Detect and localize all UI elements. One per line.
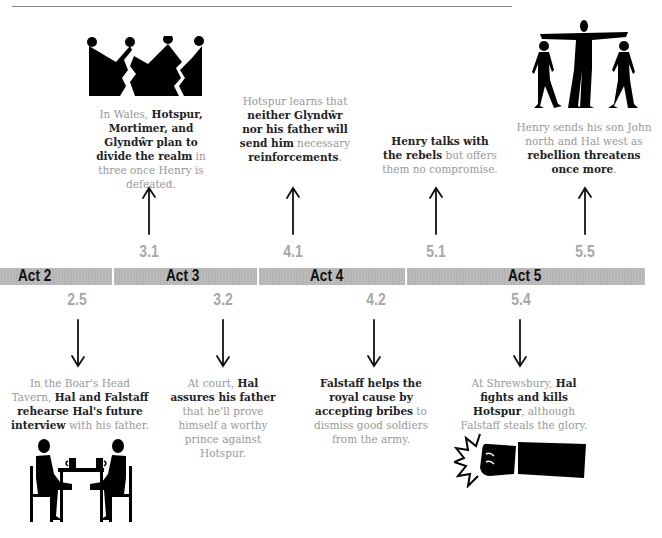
scene-number-5-5: 5.5 xyxy=(569,242,602,262)
arrow-down-icon xyxy=(512,318,528,368)
punching-fist-icon xyxy=(454,432,590,488)
caption-4-1: Hotspur learns that neither Glyndŵr nor … xyxy=(236,94,354,164)
tavern-table-icon xyxy=(16,438,144,524)
act-label-4: Act 4 xyxy=(310,266,343,286)
arrow-up-icon xyxy=(428,186,444,236)
act-bar-segment-2 xyxy=(0,268,112,285)
scene-number-5-4: 5.4 xyxy=(505,290,538,310)
caption-3-2: At court, Hal assures his father that he… xyxy=(164,376,282,460)
scene-number-4-1: 4.1 xyxy=(277,242,310,262)
act-label-5: Act 5 xyxy=(508,266,541,286)
arrow-up-icon xyxy=(285,186,301,236)
scene-number-4-2: 4.2 xyxy=(360,290,393,310)
caption-5-1: Henry talks with the rebels but offers t… xyxy=(380,134,500,176)
caption-2-5: In the Boar's Head Tavern, Hal and Falst… xyxy=(10,376,150,432)
scene-number-2-5: 2.5 xyxy=(61,290,94,310)
caption-5-4: At Shrewsbury, Hal fights and kills Hots… xyxy=(456,376,592,432)
arrow-down-icon xyxy=(366,318,382,368)
caption-4-2: Falstaff helps the royal cause by accept… xyxy=(308,376,434,446)
scene-number-3-2: 3.2 xyxy=(207,290,240,310)
caption-3-1: In Wales, Hotspur, Mortimer, and Glyndŵr… xyxy=(86,107,216,191)
scene-number-5-1: 5.1 xyxy=(420,242,453,262)
arrow-down-icon xyxy=(70,318,86,368)
arrow-up-icon xyxy=(141,186,157,236)
arrow-up-icon xyxy=(577,186,593,236)
caption-5-5: Henry sends his son John north and Hal w… xyxy=(514,120,654,176)
act-label-3: Act 3 xyxy=(166,266,199,286)
header-rule xyxy=(12,6,512,7)
three-figures-pointing-icon xyxy=(530,20,638,112)
arrow-down-icon xyxy=(215,318,231,368)
broken-crown-icon xyxy=(86,36,204,98)
scene-number-3-1: 3.1 xyxy=(133,242,166,262)
act-label-2: Act 2 xyxy=(18,266,51,286)
